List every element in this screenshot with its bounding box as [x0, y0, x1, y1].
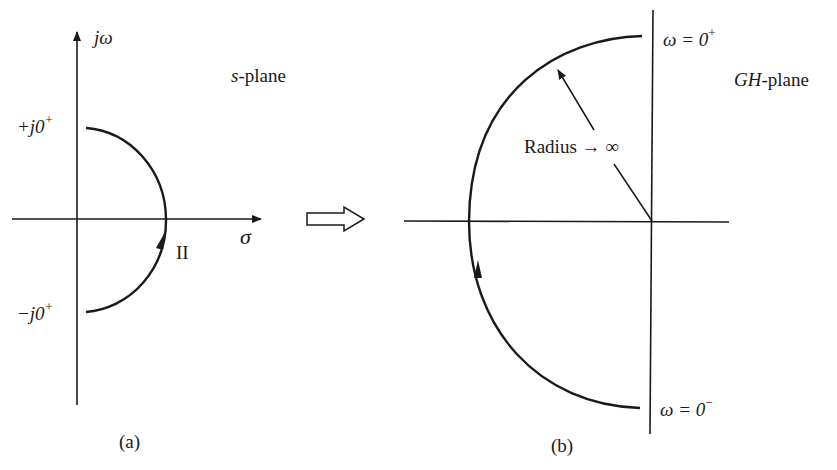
upper-point-label: +j0+	[17, 115, 53, 136]
s-plane-label-text: -plane	[238, 65, 285, 86]
top-point-label: ω = 0+	[663, 28, 716, 49]
gh-plane-diagram	[404, 10, 729, 434]
bottom-point-text: ω = 0	[660, 399, 705, 420]
gh-plane-label: GH-plane	[734, 70, 809, 89]
top-point-text: ω = 0	[663, 29, 708, 50]
lower-point-sup: +	[45, 299, 54, 314]
upper-point-sup: +	[45, 112, 54, 127]
lower-point-label: −j0+	[17, 302, 53, 323]
radius-label: Radius → ∞	[524, 137, 619, 156]
caption-b: (b)	[551, 436, 573, 455]
caption-a: (a)	[119, 432, 140, 451]
lower-point-text: −j0	[17, 303, 45, 324]
gh-plane-label-var: GH	[734, 69, 761, 90]
sigma-axis-label: σ	[240, 226, 251, 248]
transition-arrow-icon	[307, 207, 364, 231]
radius-arrow	[558, 70, 594, 130]
bottom-point-sup: −	[705, 395, 712, 410]
s-plane-diagram	[12, 32, 261, 405]
gh-plane-label-text: -plane	[761, 69, 808, 90]
top-point-sup: +	[708, 25, 715, 40]
upper-point-text: +j0	[17, 116, 45, 137]
gh-horizontal-axis	[404, 221, 729, 222]
contour-semicircle	[86, 128, 166, 312]
s-plane-label: s-plane	[231, 66, 286, 85]
nyquist-mapping-figure: jω s-plane +j0+ −j0+ σ II (a) ω = 0+ GH-…	[0, 0, 837, 470]
contour-label: II	[176, 243, 189, 262]
jw-axis-label: jω	[94, 28, 113, 47]
bottom-point-label: ω = 0−	[660, 398, 713, 419]
gh-contour-direction-arrow-icon	[474, 260, 482, 278]
radius-line	[614, 164, 652, 221]
